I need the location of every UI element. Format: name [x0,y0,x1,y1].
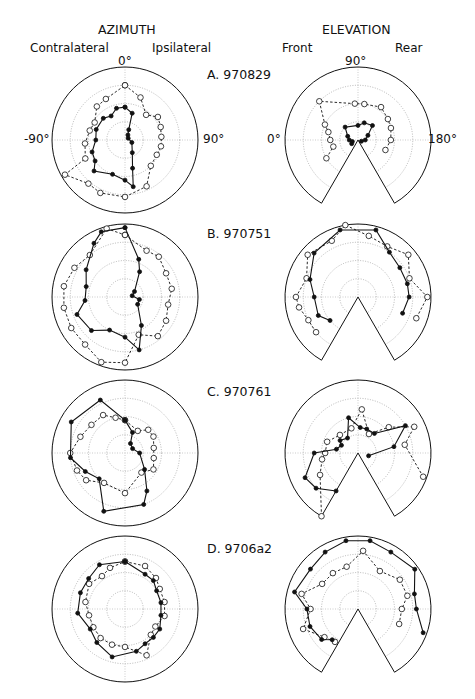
filled-series-marker [316,314,320,318]
filled-series-marker [94,138,98,142]
open-series-marker [163,270,169,276]
open-series-marker [68,325,74,331]
open-series-marker [86,181,92,187]
filled-series-marker [334,489,338,493]
open-series-marker [154,152,160,158]
filled-series-marker [407,295,411,299]
open-series-marker [122,82,128,88]
open-series-marker [317,472,323,478]
open-series-marker [407,275,413,281]
filled-series-marker [363,138,367,142]
filled-series-marker [159,601,163,605]
open-series-marker [396,621,402,627]
filled-series-marker [138,451,142,455]
filled-series-marker [405,282,409,286]
filled-series-marker [108,328,112,332]
open-series-marker [313,329,319,335]
open-series-marker [82,342,88,348]
open-series-marker [138,95,144,101]
filled-series-marker [84,285,88,289]
filled-series-marker [143,467,147,471]
open-series-marker [327,137,333,143]
filled-series-marker [123,226,127,230]
filled-series-marker [130,294,134,298]
filled-series-marker [87,576,91,580]
filled-series-marker [312,251,316,255]
filled-series-marker [93,159,97,163]
filled-series-marker [374,228,378,232]
filled-series-marker [123,105,127,109]
azimuth-plot-2 [52,380,198,526]
filled-series-marker [338,228,342,232]
filled-series-marker [97,477,101,481]
azimuth-plot-3 [52,536,198,682]
open-series-marker [299,591,305,597]
open-series-marker [144,653,150,659]
filled-series-marker [312,295,316,299]
filled-series-marker [92,169,96,173]
elevation-plot-0 [285,67,431,203]
open-series-marker [74,468,80,474]
grid-arc [303,398,412,500]
open-series-marker [101,480,107,486]
filled-series-marker [89,329,93,333]
filled-series-marker [392,445,396,449]
open-series-marker [98,635,104,641]
filled-series-marker [99,230,103,234]
open-series-marker [144,248,150,254]
open-series-marker [107,565,113,571]
filled-series-marker [343,125,347,129]
filled-series-marker [362,121,366,125]
filled-series-marker [136,302,140,306]
filled-series-marker [94,128,98,132]
filled-series-marker [137,348,141,352]
filled-series-marker [145,489,149,493]
open-series-marker [322,122,328,128]
filled-series-marker [151,635,155,639]
filled-series-marker [421,631,425,635]
filled-series-marker [356,123,360,127]
filled-series-marker [90,150,94,154]
filled-series-marker [398,266,402,270]
filled-series-marker [365,427,369,431]
filled-series-marker [403,424,407,428]
filled-series-marker [88,627,92,631]
filled-series-marker [130,430,134,434]
filled-series-marker [293,590,297,594]
open-series-marker [83,599,89,605]
open-series-marker [122,490,128,496]
open-series-marker [122,360,128,366]
open-series-marker [92,120,98,126]
open-series-marker [151,445,157,451]
filled-series-marker [330,638,334,642]
filled-series-marker [358,426,362,430]
filled-series-marker [76,611,80,615]
open-series-marker [324,155,330,161]
filled-series-marker [139,323,143,327]
open-series-marker [366,431,372,437]
filled-series-marker [158,627,162,631]
filled-series-marker [334,447,338,451]
filled-series-marker [78,591,82,595]
filled-series-marker [370,124,374,128]
open-series-marker [100,412,106,418]
filled-series-marker [312,451,316,455]
open-series-marker [163,318,169,324]
open-series-marker [99,573,105,579]
filled-series-marker [308,624,312,628]
filled-series-marker [131,185,135,189]
open-series-marker [142,563,148,569]
filled-series-marker [111,172,115,176]
open-series-marker [155,333,161,339]
open-series-marker [159,134,165,140]
filled-series-marker [83,470,87,474]
open-series-marker [420,474,426,480]
open-series-marker [305,252,311,258]
open-series-marker [324,439,330,445]
open-series-marker [62,172,68,178]
elevation-plot-3 [285,536,431,672]
filled-series-marker [114,106,118,110]
filled-series-marker [387,250,391,254]
open-series-marker [349,426,355,432]
open-series-marker [402,442,408,448]
